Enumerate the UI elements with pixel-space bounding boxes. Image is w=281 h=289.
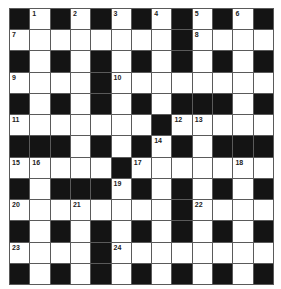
grid-cell[interactable] xyxy=(112,264,131,284)
grid-cell[interactable] xyxy=(30,115,49,135)
grid-cell[interactable]: 3 xyxy=(112,9,131,29)
grid-cell[interactable] xyxy=(233,115,252,135)
grid-cell[interactable] xyxy=(91,200,110,220)
grid-cell[interactable] xyxy=(71,73,90,93)
grid-cell[interactable] xyxy=(233,94,252,114)
grid-cell[interactable] xyxy=(112,115,131,135)
grid-cell[interactable] xyxy=(132,115,151,135)
grid-cell[interactable] xyxy=(132,30,151,50)
grid-cell[interactable] xyxy=(193,264,212,284)
grid-cell[interactable] xyxy=(213,30,232,50)
grid-cell[interactable]: 12 xyxy=(172,115,191,135)
grid-cell[interactable] xyxy=(193,73,212,93)
grid-cell[interactable] xyxy=(71,51,90,71)
grid-cell[interactable] xyxy=(152,221,171,241)
grid-cell[interactable]: 9 xyxy=(10,73,29,93)
grid-cell[interactable] xyxy=(132,243,151,263)
grid-cell[interactable]: 19 xyxy=(112,179,131,199)
grid-cell[interactable] xyxy=(254,115,273,135)
grid-cell[interactable]: 8 xyxy=(193,30,212,50)
grid-cell[interactable] xyxy=(233,179,252,199)
grid-cell[interactable] xyxy=(193,51,212,71)
grid-cell[interactable] xyxy=(172,243,191,263)
grid-cell[interactable] xyxy=(152,94,171,114)
grid-cell[interactable] xyxy=(91,30,110,50)
grid-cell[interactable]: 17 xyxy=(132,158,151,178)
grid-cell[interactable] xyxy=(233,73,252,93)
grid-cell[interactable] xyxy=(30,30,49,50)
grid-cell[interactable] xyxy=(112,51,131,71)
grid-cell[interactable] xyxy=(193,136,212,156)
grid-cell[interactable]: 7 xyxy=(10,30,29,50)
grid-cell[interactable] xyxy=(71,221,90,241)
grid-cell[interactable] xyxy=(71,115,90,135)
grid-cell[interactable] xyxy=(71,30,90,50)
grid-cell[interactable] xyxy=(112,30,131,50)
grid-cell[interactable] xyxy=(233,200,252,220)
grid-cell[interactable]: 16 xyxy=(30,158,49,178)
grid-cell[interactable] xyxy=(132,200,151,220)
grid-cell[interactable] xyxy=(233,51,252,71)
grid-cell[interactable] xyxy=(193,243,212,263)
grid-cell[interactable]: 4 xyxy=(152,9,171,29)
grid-cell[interactable] xyxy=(152,51,171,71)
grid-cell[interactable] xyxy=(152,73,171,93)
grid-cell[interactable] xyxy=(213,158,232,178)
grid-cell[interactable] xyxy=(213,115,232,135)
grid-cell[interactable]: 14 xyxy=(152,136,171,156)
grid-cell[interactable] xyxy=(30,179,49,199)
grid-cell[interactable] xyxy=(233,243,252,263)
grid-cell[interactable]: 5 xyxy=(193,9,212,29)
grid-cell[interactable] xyxy=(254,243,273,263)
grid-cell[interactable] xyxy=(71,158,90,178)
grid-cell[interactable] xyxy=(71,94,90,114)
grid-cell[interactable] xyxy=(254,200,273,220)
grid-cell[interactable] xyxy=(51,158,70,178)
grid-cell[interactable] xyxy=(172,158,191,178)
grid-cell[interactable] xyxy=(51,243,70,263)
grid-cell[interactable] xyxy=(152,30,171,50)
grid-cell[interactable] xyxy=(193,158,212,178)
grid-cell[interactable]: 23 xyxy=(10,243,29,263)
grid-cell[interactable] xyxy=(152,243,171,263)
grid-cell[interactable] xyxy=(193,179,212,199)
grid-cell[interactable] xyxy=(91,158,110,178)
grid-cell[interactable] xyxy=(30,200,49,220)
grid-cell[interactable] xyxy=(30,94,49,114)
grid-cell[interactable]: 11 xyxy=(10,115,29,135)
grid-cell[interactable] xyxy=(71,136,90,156)
grid-cell[interactable]: 1 xyxy=(30,9,49,29)
grid-cell[interactable] xyxy=(233,264,252,284)
grid-cell[interactable]: 21 xyxy=(71,200,90,220)
grid-cell[interactable] xyxy=(51,200,70,220)
grid-cell[interactable] xyxy=(213,73,232,93)
grid-cell[interactable] xyxy=(30,243,49,263)
grid-cell[interactable] xyxy=(112,221,131,241)
grid-cell[interactable] xyxy=(193,221,212,241)
grid-cell[interactable] xyxy=(132,73,151,93)
grid-cell[interactable]: 6 xyxy=(233,9,252,29)
grid-cell[interactable]: 18 xyxy=(233,158,252,178)
grid-cell[interactable]: 24 xyxy=(112,243,131,263)
grid-cell[interactable]: 10 xyxy=(112,73,131,93)
grid-cell[interactable] xyxy=(254,73,273,93)
grid-cell[interactable] xyxy=(51,73,70,93)
grid-cell[interactable] xyxy=(152,264,171,284)
grid-cell[interactable] xyxy=(233,30,252,50)
grid-cell[interactable] xyxy=(112,94,131,114)
grid-cell[interactable] xyxy=(71,264,90,284)
grid-cell[interactable] xyxy=(213,200,232,220)
grid-cell[interactable]: 20 xyxy=(10,200,29,220)
grid-cell[interactable] xyxy=(30,51,49,71)
grid-cell[interactable] xyxy=(254,158,273,178)
grid-cell[interactable] xyxy=(254,30,273,50)
grid-cell[interactable]: 13 xyxy=(193,115,212,135)
grid-cell[interactable] xyxy=(152,179,171,199)
grid-cell[interactable]: 2 xyxy=(71,9,90,29)
grid-cell[interactable] xyxy=(30,221,49,241)
grid-cell[interactable] xyxy=(172,73,191,93)
grid-cell[interactable] xyxy=(112,136,131,156)
grid-cell[interactable] xyxy=(233,221,252,241)
grid-cell[interactable] xyxy=(30,73,49,93)
grid-cell[interactable]: 15 xyxy=(10,158,29,178)
